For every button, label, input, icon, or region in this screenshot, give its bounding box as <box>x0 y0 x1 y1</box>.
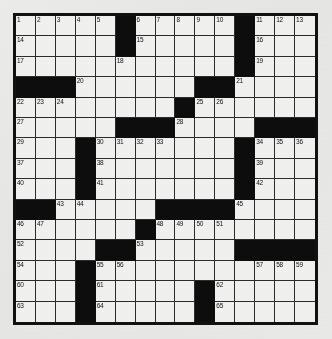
grid-cell[interactable] <box>195 118 215 138</box>
grid-cell[interactable] <box>195 240 215 260</box>
grid-cell[interactable] <box>275 281 295 301</box>
grid-cell[interactable] <box>235 302 255 322</box>
grid-cell[interactable] <box>96 36 116 56</box>
grid-cell[interactable]: 33 <box>156 138 176 158</box>
grid-cell[interactable]: 31 <box>116 138 136 158</box>
grid-cell[interactable] <box>36 138 56 158</box>
grid-cell[interactable] <box>136 179 156 199</box>
grid-cell[interactable] <box>96 77 116 97</box>
grid-cell[interactable] <box>275 36 295 56</box>
grid-cell[interactable]: 27 <box>16 118 36 138</box>
grid-cell[interactable] <box>175 77 195 97</box>
grid-cell[interactable] <box>56 281 76 301</box>
grid-cell[interactable] <box>175 261 195 281</box>
grid-cell[interactable] <box>56 220 76 240</box>
grid-cell[interactable] <box>36 57 56 77</box>
grid-cell[interactable] <box>56 159 76 179</box>
grid-cell[interactable]: 3 <box>56 16 76 36</box>
grid-cell[interactable]: 54 <box>16 261 36 281</box>
grid-cell[interactable] <box>175 138 195 158</box>
grid-cell[interactable] <box>96 200 116 220</box>
grid-cell[interactable] <box>175 240 195 260</box>
grid-cell[interactable] <box>156 159 176 179</box>
grid-cell[interactable] <box>156 261 176 281</box>
grid-cell[interactable]: 41 <box>96 179 116 199</box>
grid-cell[interactable] <box>136 159 156 179</box>
grid-cell[interactable]: 59 <box>295 261 315 281</box>
grid-cell[interactable] <box>215 240 235 260</box>
grid-cell[interactable] <box>96 118 116 138</box>
grid-cell[interactable] <box>235 220 255 240</box>
grid-cell[interactable] <box>36 281 56 301</box>
grid-cell[interactable] <box>295 200 315 220</box>
grid-cell[interactable] <box>136 77 156 97</box>
grid-cell[interactable]: 23 <box>36 98 56 118</box>
grid-cell[interactable] <box>255 281 275 301</box>
grid-cell[interactable] <box>136 302 156 322</box>
grid-cell[interactable] <box>56 36 76 56</box>
grid-cell[interactable] <box>215 57 235 77</box>
grid-cell[interactable]: 32 <box>136 138 156 158</box>
grid-cell[interactable]: 11 <box>255 16 275 36</box>
grid-cell[interactable] <box>195 159 215 179</box>
grid-cell[interactable] <box>175 302 195 322</box>
grid-cell[interactable] <box>275 302 295 322</box>
grid-cell[interactable] <box>295 57 315 77</box>
grid-cell[interactable] <box>116 200 136 220</box>
grid-cell[interactable]: 12 <box>275 16 295 36</box>
grid-cell[interactable] <box>275 200 295 220</box>
grid-cell[interactable]: 9 <box>195 16 215 36</box>
grid-cell[interactable] <box>56 179 76 199</box>
grid-cell[interactable] <box>275 98 295 118</box>
grid-cell[interactable]: 4 <box>76 16 96 36</box>
grid-cell[interactable]: 61 <box>96 281 116 301</box>
grid-cell[interactable]: 6 <box>136 16 156 36</box>
grid-cell[interactable]: 39 <box>255 159 275 179</box>
grid-cell[interactable] <box>175 57 195 77</box>
grid-cell[interactable] <box>235 261 255 281</box>
grid-cell[interactable] <box>275 179 295 199</box>
grid-cell[interactable] <box>56 240 76 260</box>
grid-cell[interactable] <box>295 98 315 118</box>
grid-cell[interactable]: 28 <box>175 118 195 138</box>
grid-cell[interactable] <box>36 36 56 56</box>
grid-cell[interactable] <box>215 118 235 138</box>
grid-cell[interactable] <box>235 98 255 118</box>
grid-cell[interactable]: 10 <box>215 16 235 36</box>
grid-cell[interactable]: 17 <box>16 57 36 77</box>
grid-cell[interactable] <box>255 200 275 220</box>
grid-cell[interactable]: 26 <box>215 98 235 118</box>
grid-cell[interactable] <box>56 302 76 322</box>
grid-cell[interactable] <box>235 118 255 138</box>
grid-cell[interactable] <box>175 179 195 199</box>
grid-cell[interactable]: 58 <box>275 261 295 281</box>
grid-cell[interactable] <box>36 118 56 138</box>
grid-cell[interactable] <box>136 98 156 118</box>
grid-cell[interactable]: 46 <box>16 220 36 240</box>
grid-cell[interactable] <box>156 281 176 301</box>
grid-cell[interactable] <box>275 220 295 240</box>
grid-cell[interactable] <box>295 77 315 97</box>
grid-cell[interactable] <box>275 57 295 77</box>
grid-cell[interactable]: 2 <box>36 16 56 36</box>
grid-cell[interactable] <box>76 118 96 138</box>
grid-cell[interactable] <box>36 261 56 281</box>
grid-cell[interactable] <box>175 281 195 301</box>
grid-cell[interactable] <box>76 240 96 260</box>
grid-cell[interactable] <box>96 57 116 77</box>
grid-cell[interactable] <box>156 77 176 97</box>
grid-cell[interactable]: 36 <box>295 138 315 158</box>
grid-cell[interactable] <box>156 36 176 56</box>
grid-cell[interactable]: 57 <box>255 261 275 281</box>
grid-cell[interactable] <box>195 138 215 158</box>
grid-cell[interactable] <box>116 220 136 240</box>
grid-cell[interactable]: 52 <box>16 240 36 260</box>
grid-cell[interactable] <box>76 220 96 240</box>
grid-cell[interactable]: 14 <box>16 36 36 56</box>
grid-cell[interactable] <box>215 261 235 281</box>
grid-cell[interactable]: 49 <box>175 220 195 240</box>
grid-cell[interactable] <box>56 118 76 138</box>
grid-cell[interactable]: 64 <box>96 302 116 322</box>
grid-cell[interactable] <box>215 159 235 179</box>
grid-cell[interactable] <box>255 220 275 240</box>
